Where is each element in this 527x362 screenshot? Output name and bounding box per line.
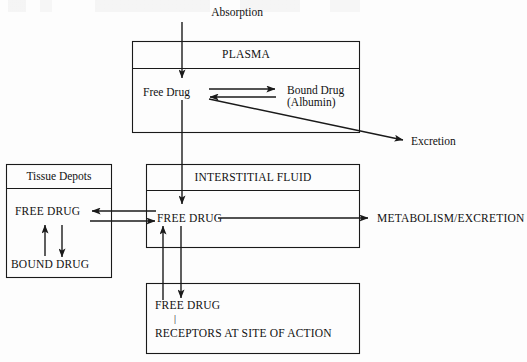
tissue-depots-free-drug-label: FREE DRUG [15,205,80,218]
tissue-depots-header: Tissue Depots [26,170,91,183]
receptors-site-of-action-label: RECEPTORS AT SITE OF ACTION [155,327,332,340]
label-excretion: Excretion [411,135,456,148]
label-metabolism-excretion: METABOLISM/EXCRETION [377,212,524,225]
plasma-bound-drug-label-line1: Bound Drug [287,84,344,97]
receptors-free-drug-label: FREE DRUG [155,299,220,312]
plasma-header: PLASMA [222,48,270,61]
receptor-bond-symbol: | [174,313,176,324]
plasma-bound-drug-label-line2: (Albumin) [287,96,336,109]
tissue-depots-bound-drug-label: BOUND DRUG [11,258,89,271]
interstitial-fluid-header: INTERSTITIAL FLUID [194,171,311,184]
receptors-box [147,284,360,354]
diagram-canvas: Absorption PLASMA Free Drug Bound Drug (… [0,0,527,362]
interstitial-free-drug-label: FREE DRUG [157,212,222,225]
label-absorption: Absorption [211,6,263,19]
plasma-free-drug-label: Free Drug [143,86,190,99]
